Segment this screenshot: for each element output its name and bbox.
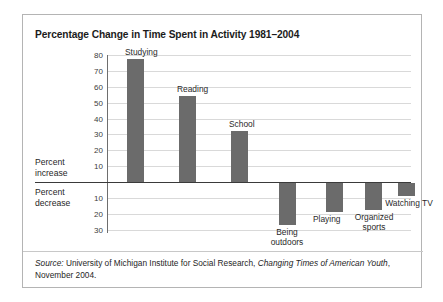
bar-label-watching-tv: Watching TV [383,198,435,208]
gridline-60 [107,87,411,88]
bar-school[interactable] [231,131,248,182]
source-label: Source: [35,258,64,268]
y-tick-40: 40 [81,115,103,124]
chart-title: Percentage Change in Time Spent in Activ… [35,29,299,40]
y-tick-neg-20: 20 [81,210,103,219]
y-tick-60: 60 [81,83,103,92]
bar-studying[interactable] [127,59,144,182]
bar-being-outdoors[interactable] [279,183,296,225]
bar-organized-sports[interactable] [365,183,382,210]
source-text-before: University of Michigan Institute for Soc… [64,258,258,268]
bar-playing[interactable] [326,183,343,212]
bar-label-school: School [229,119,255,129]
y-tick-30: 30 [81,130,103,139]
gridline-20 [107,150,411,151]
bar-label-being-outdoors: Being outdoors [261,227,313,247]
y-tick-70: 70 [81,67,103,76]
zero-baseline [35,182,411,183]
percent-decrease-line1: Percent [35,187,97,198]
y-tick-neg-30: 30 [81,226,103,235]
source-publication-title: Changing Times of American Youth [258,258,388,268]
gridline-40 [107,119,411,120]
plot-area: 80 70 60 50 40 30 20 10 10 20 30 Percent… [35,51,411,243]
gridline-30 [107,134,411,135]
percent-increase-caption: Percent increase [35,157,97,178]
percent-decrease-caption: Percent decrease [35,187,97,208]
y-axis-line [107,55,108,233]
y-tick-50: 50 [81,99,103,108]
gridline-10 [107,166,411,167]
bar-label-organized-sports: Organized sports [348,212,400,232]
bar-reading[interactable] [179,96,196,182]
percent-increase-line2: increase [35,168,97,179]
bar-label-reading: Reading [177,84,208,94]
figure-container: Percentage Change in Time Spent in Activ… [22,14,422,288]
source-divider [23,251,423,252]
bar-watching-tv[interactable] [398,183,415,196]
gridline-70 [107,71,411,72]
source-note: Source: University of Michigan Institute… [35,258,411,281]
gridline-50 [107,103,411,104]
y-tick-20: 20 [81,146,103,155]
percent-decrease-line2: decrease [35,198,97,209]
percent-increase-line1: Percent [35,157,97,168]
bar-label-studying: Studying [125,47,158,57]
y-tick-80: 80 [81,51,103,60]
bar-label-playing: Playing [313,214,340,224]
